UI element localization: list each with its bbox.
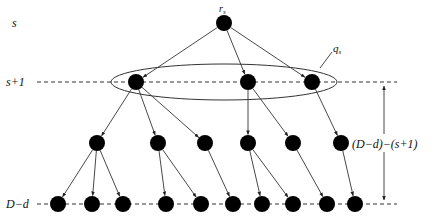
group-label: qs <box>333 42 342 56</box>
level-label-d-minus-d: D−d <box>5 197 30 211</box>
leaf-node <box>193 196 209 212</box>
tree-edge <box>297 150 323 197</box>
level-label-s-plus-1: s+1 <box>6 75 25 89</box>
tree-edge <box>231 27 305 77</box>
level2-node <box>150 135 166 151</box>
level1-node <box>240 74 256 90</box>
tree-edge <box>143 27 217 77</box>
tree-edge <box>63 150 93 197</box>
tree-edge <box>93 151 97 196</box>
leaf-node <box>84 196 100 212</box>
level2-node <box>240 135 256 151</box>
tree-edge <box>208 150 229 196</box>
level2-node <box>285 135 301 151</box>
group-pointer-line <box>320 52 332 68</box>
tree-edge <box>102 89 132 136</box>
span-label: (D−d)−(s+1) <box>352 137 418 151</box>
leaf-node <box>115 196 131 212</box>
tree-edge <box>227 30 245 74</box>
root-node <box>216 15 232 31</box>
leaf-node <box>285 196 301 212</box>
leaf-node <box>319 196 335 212</box>
leaf-node <box>158 196 174 212</box>
root-label: rs <box>219 3 226 16</box>
tree-edge <box>163 150 196 198</box>
leaf-node <box>225 196 241 212</box>
level2-node <box>333 135 349 151</box>
level-label-s: s <box>12 16 17 30</box>
tree-diagram: s s+1 D−d qs rs (D−d)−(s+1) <box>0 0 431 223</box>
leaf-node <box>50 196 66 212</box>
leaf-node <box>347 196 363 212</box>
tree-edge <box>253 88 288 136</box>
level2-node <box>197 135 213 151</box>
level2-node <box>89 135 105 151</box>
tree-edge <box>315 89 337 135</box>
tree-edge <box>142 87 199 137</box>
tree-edge <box>343 151 353 196</box>
edges <box>63 27 354 197</box>
level1-node <box>304 74 320 90</box>
nodes <box>50 15 363 212</box>
tree-edge <box>100 150 120 196</box>
tree-edge <box>253 149 288 197</box>
tree-edge <box>159 151 165 196</box>
leaf-node <box>254 196 270 212</box>
level1-node <box>128 74 144 90</box>
